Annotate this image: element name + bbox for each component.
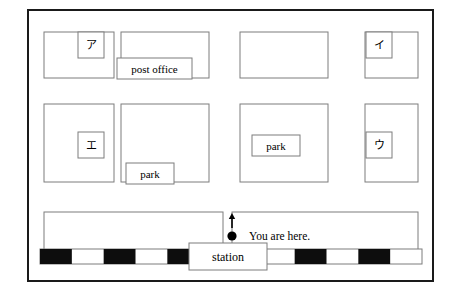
label-park-upper: park xyxy=(252,135,300,156)
railway-segment-dark xyxy=(104,249,136,264)
block-top-right-inner xyxy=(240,32,328,78)
station-label: station xyxy=(212,250,244,264)
railway-segment-dark xyxy=(295,249,327,264)
label-e-kana-text: エ xyxy=(86,139,97,152)
label-post-office-text: post office xyxy=(131,63,178,75)
railway-segment-dark xyxy=(40,249,72,264)
label-park-lower-text: park xyxy=(140,168,160,180)
station-marker: station xyxy=(189,243,267,270)
you-are-here-label: You are here. xyxy=(249,230,310,242)
current-location-dot-icon xyxy=(227,231,236,240)
label-park-upper-text: park xyxy=(266,140,286,152)
label-u-kana-text: ウ xyxy=(374,139,385,152)
label-post-office: post office xyxy=(117,58,192,79)
label-a-kana-text: ア xyxy=(86,39,97,52)
town-map-figure: アイエウpost officeparkpark station You are … xyxy=(0,0,450,289)
label-park-lower: park xyxy=(126,163,174,184)
label-i-kana-text: イ xyxy=(374,39,385,52)
label-a-kana: ア xyxy=(78,32,104,58)
label-u-kana: ウ xyxy=(366,132,392,158)
label-e-kana: エ xyxy=(78,132,104,158)
railway-segment-dark xyxy=(358,249,390,264)
label-i-kana: イ xyxy=(366,32,392,58)
